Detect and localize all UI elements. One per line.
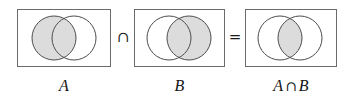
operator-equals-icon: = bbox=[226, 30, 244, 45]
venn-graphic-b bbox=[135, 10, 224, 66]
venn-graphic-a bbox=[18, 10, 110, 66]
venn-panel-b bbox=[134, 9, 225, 67]
venn-diagram-figure: ∩ = A B A∩B bbox=[0, 0, 351, 101]
venn-panel-a-intersect-b bbox=[245, 9, 337, 67]
operator-intersection-icon: ∩ bbox=[113, 30, 133, 45]
caption-a-label: A bbox=[273, 77, 283, 94]
caption-b-label: B bbox=[299, 77, 309, 94]
caption-a-label: A bbox=[59, 77, 69, 94]
venn-panel-a bbox=[17, 9, 111, 67]
caption-panel-b: B bbox=[134, 78, 225, 94]
venn-graphic-a-intersect-b bbox=[246, 10, 336, 66]
caption-panel-a-intersect-b: A∩B bbox=[245, 78, 337, 94]
caption-b-label: B bbox=[175, 77, 185, 94]
caption-intersection-icon: ∩ bbox=[283, 78, 299, 94]
caption-panel-a: A bbox=[17, 78, 111, 94]
